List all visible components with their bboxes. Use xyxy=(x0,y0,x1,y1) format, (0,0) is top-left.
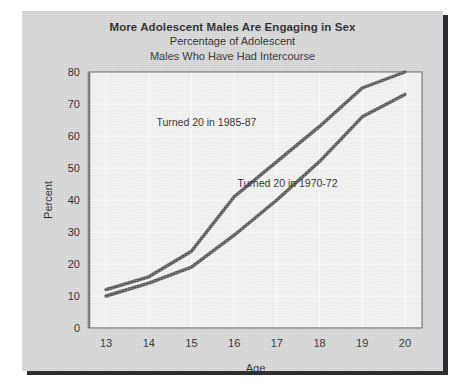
y-axis-tick-label: 50 xyxy=(68,162,80,174)
x-axis-tick-label: 15 xyxy=(185,337,197,349)
y-axis-tick-label: 30 xyxy=(68,226,80,238)
plot-area: 010203040506070801314151617181920Percent… xyxy=(22,11,443,371)
y-axis-tick-label: 10 xyxy=(68,290,80,302)
series-annotation-label: Turned 20 in 1985-87 xyxy=(156,116,256,128)
y-axis-tick-label: 40 xyxy=(68,194,80,206)
x-axis-tick-label: 18 xyxy=(313,337,325,349)
x-axis-tick-label: 20 xyxy=(399,337,411,349)
y-axis-tick-label: 80 xyxy=(68,66,80,78)
chart-card: More Adolescent Males Are Engaging in Se… xyxy=(22,11,443,371)
chart-figure: More Adolescent Males Are Engaging in Se… xyxy=(0,0,451,392)
x-axis-tick-label: 13 xyxy=(100,337,112,349)
y-axis-tick-label: 20 xyxy=(68,258,80,270)
x-axis-tick-label: 19 xyxy=(356,337,368,349)
y-axis-tick-label: 70 xyxy=(68,98,80,110)
x-axis-tick-label: 17 xyxy=(271,337,283,349)
y-axis-tick-label: 60 xyxy=(68,130,80,142)
x-axis-tick-label: 16 xyxy=(228,337,240,349)
line-chart-svg: 010203040506070801314151617181920Percent… xyxy=(22,11,443,371)
x-axis-title: Age xyxy=(246,362,266,371)
x-axis-tick-label: 14 xyxy=(143,337,155,349)
y-axis-title: Percent xyxy=(42,181,54,219)
y-axis-tick-label: 0 xyxy=(74,322,80,334)
series-annotation-label: Turned 20 in 1970-72 xyxy=(238,177,338,189)
